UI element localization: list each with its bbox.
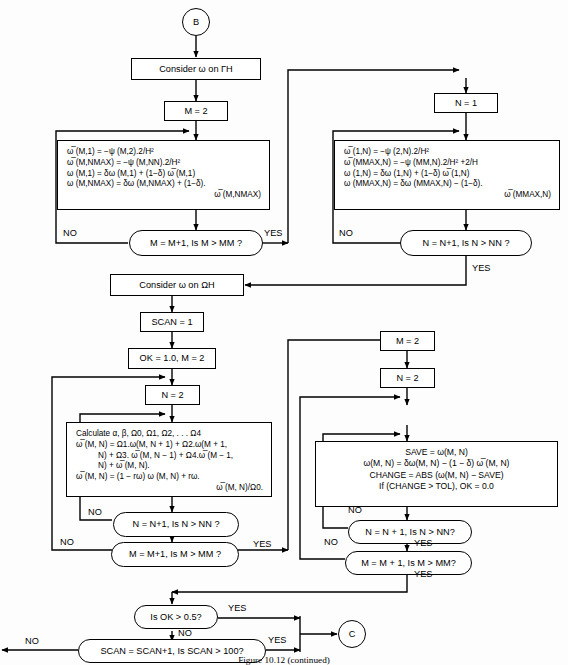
process-n-eq-2-right: N = 2 xyxy=(380,368,435,388)
formula-line: ω̅ (1,N) = −ψ (2,N).2/H² xyxy=(344,147,551,158)
edge-label-no: NO xyxy=(348,506,362,515)
edge-label-no: NO xyxy=(178,629,192,638)
process-n-eq-2-left-label: N = 2 xyxy=(161,390,183,401)
process-consider-gamma: Consider ω on ΓH xyxy=(131,58,261,80)
edge-label-yes: YES xyxy=(472,264,490,273)
terminal-c: C xyxy=(338,620,366,648)
formula-line: Calculate α, β, Ω0, Ω1, Ω2, . . . Ω4 xyxy=(76,429,263,440)
terminal-b: B xyxy=(182,8,210,36)
decision-n-loop-left: N = N+1, Is N > NN ? xyxy=(113,512,239,537)
formula-line: ω̅ (M, N) = (1 − rω) ω (M, N) + rω. xyxy=(76,472,263,483)
edge-label-text: NO xyxy=(63,228,77,238)
process-scan-eq-1: SCAN = 1 xyxy=(140,312,204,332)
edge-label-no: NO xyxy=(324,538,338,547)
formula-line: If (CHANGE > TOL), OK = 0.0 xyxy=(320,481,553,492)
edge-label-no: NO xyxy=(25,637,39,646)
process-consider-omega-label: Consider ω on ΩH xyxy=(139,280,214,291)
formula-line: ω (1,N) = δω (1,N) + (1−δ) ω̅ (1,N) xyxy=(344,169,551,180)
formula-line: ω (M,1) = δω (M,1) + (1−δ) ω̅ (M,1) xyxy=(67,169,261,180)
process-m-eq-2-right: M = 2 xyxy=(380,331,435,351)
figure-caption: Figure 10.12 (continued) xyxy=(0,655,568,665)
formula-left-top-body: ω̅ (M,1) = −ψ (M,2).2/H² ω̅ (M,NMAX) = −… xyxy=(58,141,269,207)
process-m-eq-2-right-label: M = 2 xyxy=(396,336,419,347)
decision-ok-check-label: Is OK > 0.5? xyxy=(150,612,201,623)
formula-line: ω̅ (M,NMAX) xyxy=(67,190,261,201)
edge-label-no: NO xyxy=(88,508,102,517)
formula-line: SAVE = ω(M, N) xyxy=(320,447,553,458)
decision-n-loop-left-label: N = N+1, Is N > NN ? xyxy=(132,519,219,530)
decision-m-loop-top-label: M = M+1, Is M > MM ? xyxy=(150,238,242,249)
process-n-eq-1-top-label: N = 1 xyxy=(455,98,477,109)
formula-line: ω (MMAX,N) = δω (MMAX,N) − (1−δ). xyxy=(344,179,551,190)
edge-label-no: NO xyxy=(339,229,353,238)
formula-line: ω(M, N) = δω(M, N) − (1 − δ) ω̅ (M, N) xyxy=(320,458,553,469)
edge-label-text: YES xyxy=(472,263,490,273)
formula-line: N) + ω̅ (M, N). xyxy=(76,461,263,472)
process-n-eq-2-right-label: N = 2 xyxy=(396,373,418,384)
decision-n-loop-right-label: N = N + 1, Is N > NN? xyxy=(365,527,455,538)
formula-box-save: SAVE = ω(M, N) ω(M, N) = δω(M, N) − (1 −… xyxy=(315,441,558,507)
formula-line: CHANGE = ABS (ω(M, N) − SAVE) xyxy=(320,470,553,481)
edge-label-text: NO xyxy=(178,628,192,638)
edge-label-text: YES xyxy=(264,228,282,238)
formula-line: ω̅ (M, N) = Ω1.ω(M, N + 1) + Ω2.ω(M + 1, xyxy=(76,440,263,451)
formula-box-left-top: ω̅ (M,1) = −ψ (M,2).2/H² ω̅ (M,NMAX) = −… xyxy=(57,140,270,210)
edge-label-text: YES xyxy=(228,603,246,613)
edge-label-yes: YES xyxy=(253,540,271,549)
edge-label-yes: YES xyxy=(264,229,282,238)
figure-caption-text: Figure 10.12 (continued) xyxy=(238,655,330,665)
edge-label-no: NO xyxy=(60,538,74,547)
edge-label-text: NO xyxy=(348,505,362,515)
formula-line: N) + Ω3. ω̅ (M, N − 1) + Ω4.ω̅ (M − 1, xyxy=(76,451,263,462)
edge-label-text: NO xyxy=(88,507,102,517)
decision-m-loop-right-label: M = M + 1, Is M > MM? xyxy=(361,558,456,569)
decision-m-loop-right: M = M + 1, Is M > MM? xyxy=(345,551,472,575)
formula-box-calculate: Calculate α, β, Ω0, Ω1, Ω2, . . . Ω4 ω̅ … xyxy=(66,422,272,497)
edge-label-text: NO xyxy=(25,636,39,646)
edge-label-text: NO xyxy=(60,537,74,547)
decision-n-loop-right: N = N + 1, Is N > NN? xyxy=(348,520,472,544)
decision-m-loop-top: M = M+1, Is M > MM ? xyxy=(129,230,263,256)
formula-line: ω̅ (M,NMAX) = −ψ (M,NN).2/H² xyxy=(67,158,261,169)
decision-n-loop-top: N = N+1, Is N > NN ? xyxy=(400,230,532,256)
terminal-c-label: C xyxy=(349,629,356,640)
edge-label-yes: YES xyxy=(414,539,432,548)
edge-label-text: NO xyxy=(324,537,338,547)
formula-box-right-top: ω̅ (1,N) = −ψ (2,N).2/H² ω̅ (MMAX,N) = −… xyxy=(334,140,560,210)
process-m-eq-2-top-label: M = 2 xyxy=(184,106,207,117)
formula-line: ω̅ (MMAX,N) = −ψ (MM,N).2/H² +2/H xyxy=(344,158,551,169)
edge-label-yes: YES xyxy=(228,604,246,613)
process-scan-eq-1-label: SCAN = 1 xyxy=(151,317,192,328)
terminal-b-label: B xyxy=(193,17,199,28)
formula-save-body: SAVE = ω(M, N) ω(M, N) = δω(M, N) − (1 −… xyxy=(316,442,557,497)
process-ok-m-init-label: OK = 1.0, M = 2 xyxy=(140,353,205,364)
decision-n-loop-top-label: N = N+1, Is N > NN ? xyxy=(422,238,509,249)
process-n-eq-1-top: N = 1 xyxy=(434,93,498,113)
edge-label-text: YES xyxy=(268,635,286,645)
edge-label-text: YES xyxy=(253,539,271,549)
process-consider-omega: Consider ω on ΩH xyxy=(110,274,244,296)
formula-line: ω̅ (M,1) = −ψ (M,2).2/H² xyxy=(67,147,261,158)
formula-line: ω̅ (M, N)/Ω0. xyxy=(76,483,263,494)
decision-ok-check: Is OK > 0.5? xyxy=(134,605,218,629)
decision-m-loop-left: M = M+1, Is M > MM ? xyxy=(111,542,239,567)
process-consider-gamma-label: Consider ω on ΓH xyxy=(159,64,233,75)
edge-label-no: NO xyxy=(63,229,77,238)
formula-line: ω̅ (MMAX,N) xyxy=(344,190,551,201)
edge-label-text: YES xyxy=(414,538,432,548)
formula-calculate-body: Calculate α, β, Ω0, Ω1, Ω2, . . . Ω4 ω̅ … xyxy=(67,423,271,500)
flowchart-figure: B C Consider ω on ΓH M = 2 N = 1 ω̅ (M,1… xyxy=(0,0,568,665)
decision-m-loop-left-label: M = M+1, Is M > MM ? xyxy=(129,549,221,560)
process-m-eq-2-top: M = 2 xyxy=(164,101,228,121)
edge-label-text: NO xyxy=(339,228,353,238)
formula-right-top-body: ω̅ (1,N) = −ψ (2,N).2/H² ω̅ (MMAX,N) = −… xyxy=(335,141,559,207)
edge-label-text: YES xyxy=(414,569,432,579)
process-n-eq-2-left: N = 2 xyxy=(145,385,200,405)
formula-line: ω (M,NMAX) = δω (M,NMAX) + (1−δ). xyxy=(67,179,261,190)
process-ok-m-init: OK = 1.0, M = 2 xyxy=(128,348,216,369)
edge-label-yes: YES xyxy=(414,570,432,579)
edge-label-yes: YES xyxy=(268,636,286,645)
